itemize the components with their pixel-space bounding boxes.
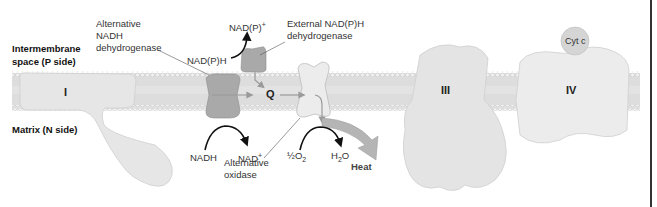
complex-i-label: I (64, 86, 67, 98)
half-o2-label: ½O2 (287, 150, 306, 166)
h2o-label: H2O (331, 150, 349, 166)
ext-nadph-line1: External NAD(P)H (287, 18, 364, 30)
cyt-c-label: Cyt c (565, 35, 586, 47)
alt-nadh-line3: dehydrogenase (96, 42, 162, 54)
complex-iii (403, 45, 506, 191)
nadph-label: NAD(P)H (187, 55, 227, 67)
h2o-o: O (342, 150, 349, 161)
intermembrane-label: Intermembrane space (P side) (12, 42, 81, 68)
nadp-plus-label: NAD(P)+ (229, 19, 266, 34)
complex-iv-label: IV (566, 84, 576, 96)
alt-nadh-dehydrogenase (206, 74, 240, 118)
nadp-plus-sup: + (262, 21, 266, 28)
complex-iii-label: III (441, 84, 450, 96)
ext-nadph-line2: dehydrogenase (287, 30, 364, 42)
ext-nadph-dehydrogenase-label: External NAD(P)H dehydrogenase (287, 18, 364, 42)
alt-oxidase-line1: Alternative (224, 157, 269, 169)
alt-oxidase-label: Alternative oxidase (224, 157, 269, 181)
intermembrane-line1: Intermembrane (12, 42, 81, 55)
alt-oxidase (297, 62, 331, 117)
alt-nadh-line2: NADH (96, 30, 162, 42)
alt-nadh-dehydrogenase-label: Alternative NADH dehydrogenase (96, 18, 162, 54)
nadp-plus-text: NAD(P) (229, 22, 262, 33)
right-border-line (650, 0, 652, 207)
alt-oxidase-line2: oxidase (224, 169, 269, 181)
intermembrane-line2: space (P side) (12, 55, 81, 68)
half-o2-sub: 2 (302, 156, 306, 163)
alt-nadh-line1: Alternative (96, 18, 162, 30)
h2o-h: H (331, 150, 338, 161)
ext-nadph-dehydrogenase (241, 47, 266, 72)
electron-transport-diagram: Intermembrane space (P side) Matrix (N s… (0, 0, 657, 207)
nadh-label: NADH (190, 152, 217, 164)
half-o2-text: ½O (287, 150, 302, 161)
matrix-label: Matrix (N side) (12, 123, 77, 136)
q-label: Q (266, 88, 275, 100)
heat-label: Heat (351, 161, 372, 173)
